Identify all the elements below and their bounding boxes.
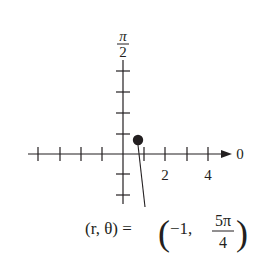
tick-label-2: 2 (161, 167, 169, 183)
tick-label-4: 4 (204, 167, 212, 183)
vertical-axis-label: π 2 (117, 28, 129, 60)
annotation-r-value: −1, (170, 219, 192, 238)
label-two: 2 (119, 44, 127, 60)
annotation-lhs: (r, θ) = (85, 219, 132, 238)
arrow-head-icon (221, 150, 232, 158)
annotation-close-paren: ) (236, 213, 248, 253)
annotation-open-paren: ( (158, 213, 170, 253)
label-pi: π (119, 28, 127, 44)
annotation-theta-numerator: 5π (215, 212, 231, 229)
polar-axis-label: 0 (236, 146, 244, 162)
annotation-theta-denominator: 4 (219, 234, 227, 251)
polar-diagram: π 2 0 2 4 (r, θ) = ( −1, 5π 4 (0, 0, 255, 257)
plotted-point (133, 135, 143, 145)
point-annotation: (r, θ) = ( −1, 5π 4 ) (85, 212, 248, 253)
